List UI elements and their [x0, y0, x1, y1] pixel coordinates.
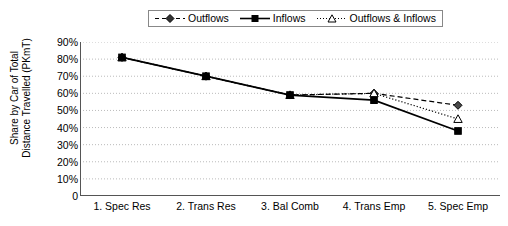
square-solid-marker-icon: [240, 13, 270, 24]
series-marker-inflows: [119, 54, 126, 61]
x-axis-tick-label: 5. Spec Emp: [428, 200, 488, 212]
y-axis-tick-label: 80%: [57, 54, 78, 65]
chart-legend: Outflows Inflows Outflows & Inflows: [148, 10, 443, 27]
x-axis-tick-label: 4. Trans Emp: [343, 200, 405, 212]
x-axis-tick-labels: 1. Spec Res2. Trans Res3. Bal Comb4. Tra…: [80, 200, 500, 220]
y-axis-tick-label: 60%: [57, 88, 78, 99]
y-axis-tick-label: 70%: [57, 71, 78, 82]
y-axis-title-line2: Distance Travelled (PKmT): [21, 38, 34, 157]
y-axis-tick-label: 20%: [57, 157, 78, 168]
legend-item-inflows: Inflows: [240, 13, 306, 24]
series-marker-inflows: [287, 92, 294, 99]
triangle-dotted-marker-icon: [317, 13, 347, 24]
y-axis-title: Share by Car of Total Distance Travelled…: [4, 0, 38, 196]
series-marker-inflows: [455, 128, 462, 135]
series-line-outflows-inflows: [122, 57, 458, 119]
chart-container: Outflows Inflows Outflows & Inflows Shar…: [0, 0, 508, 226]
y-axis-tick-label: 90%: [57, 37, 78, 48]
plot-area: [80, 42, 500, 196]
y-axis-title-line1: Share by Car of Total: [9, 51, 22, 145]
series-marker-inflows: [203, 73, 210, 80]
y-axis-tick-label: 30%: [57, 139, 78, 150]
diamond-dashed-marker-icon: [155, 13, 185, 24]
series-marker-outflows-inflows: [454, 115, 462, 123]
y-axis-tick-labels: 010%20%30%40%50%60%70%80%90%: [48, 0, 78, 226]
legend-item-outflows: Outflows: [155, 13, 229, 24]
series-marker-outflows: [454, 101, 462, 109]
legend-label-outflows-and-inflows: Outflows & Inflows: [350, 13, 436, 24]
series-marker-inflows: [371, 97, 378, 104]
legend-item-outflows-and-inflows: Outflows & Inflows: [317, 13, 436, 24]
y-axis-tick-label: 50%: [57, 105, 78, 116]
y-axis-tick-label: 40%: [57, 122, 78, 133]
legend-label-inflows: Inflows: [273, 13, 306, 24]
x-axis-tick-label: 2. Trans Res: [176, 200, 236, 212]
plot-svg: [80, 42, 500, 196]
x-axis-tick-label: 1. Spec Res: [93, 200, 150, 212]
y-axis-tick-label: 10%: [57, 174, 78, 185]
legend-label-outflows: Outflows: [188, 13, 229, 24]
x-axis-tick-label: 3. Bal Comb: [261, 200, 319, 212]
y-axis-tick-label: 0: [72, 191, 78, 202]
